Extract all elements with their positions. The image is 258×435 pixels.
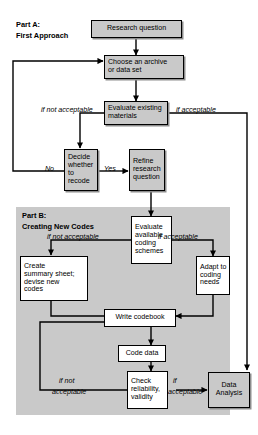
node-refine-question[interactable]: Refine research question	[129, 149, 165, 191]
flowchart-canvas: Part A:First Approach Research question …	[0, 0, 258, 435]
edge-label-a-if-not-acceptable: if not acceptable	[41, 106, 93, 114]
part-a-title-line1: Part A:	[16, 20, 40, 29]
edge-label-b-if-acceptable-top: if acceptable	[158, 233, 198, 241]
edge-label-b-if-not-line2: acceptable	[52, 388, 86, 396]
edge-label-a-no: No	[45, 165, 54, 173]
node-write-codebook[interactable]: Write codebook	[104, 309, 176, 327]
part-b-title: Part B:Creating New Codes	[22, 211, 94, 232]
node-research-question[interactable]: Research question	[91, 20, 182, 38]
edge-label-a-yes: Yes	[104, 165, 116, 173]
edge-label-b-if-line1: if	[173, 377, 177, 385]
edge-label-b-if-line2: acceptable	[168, 388, 202, 396]
part-b-title-line1: Part B:	[22, 211, 46, 220]
part-a-title: Part A:First Approach	[16, 20, 68, 41]
part-b-title-line2: Creating New Codes	[22, 222, 94, 231]
node-evaluate-existing[interactable]: Evaluate existing materials	[104, 101, 168, 125]
node-decide-recode[interactable]: Decide whether to recode	[64, 149, 98, 191]
edge-label-b-if-not-line1: if not	[59, 377, 74, 385]
node-code-data[interactable]: Code data	[118, 345, 166, 362]
node-check-reliability[interactable]: Check reliability, validity	[127, 371, 168, 409]
node-data-analysis[interactable]: Data Analysis	[208, 372, 250, 408]
part-a-title-line2: First Approach	[16, 31, 68, 40]
node-choose-archive[interactable]: Choose an archive or data set	[104, 55, 184, 79]
edge-label-a-if-acceptable: if acceptable	[176, 106, 216, 114]
edge-label-b-if-not-acceptable-top: if not acceptable	[47, 233, 99, 241]
node-create-summary-sheet[interactable]: Create summary sheet; devise new codes	[20, 256, 88, 301]
node-adapt-coding-needs[interactable]: Adapt to coding needs	[196, 256, 230, 295]
